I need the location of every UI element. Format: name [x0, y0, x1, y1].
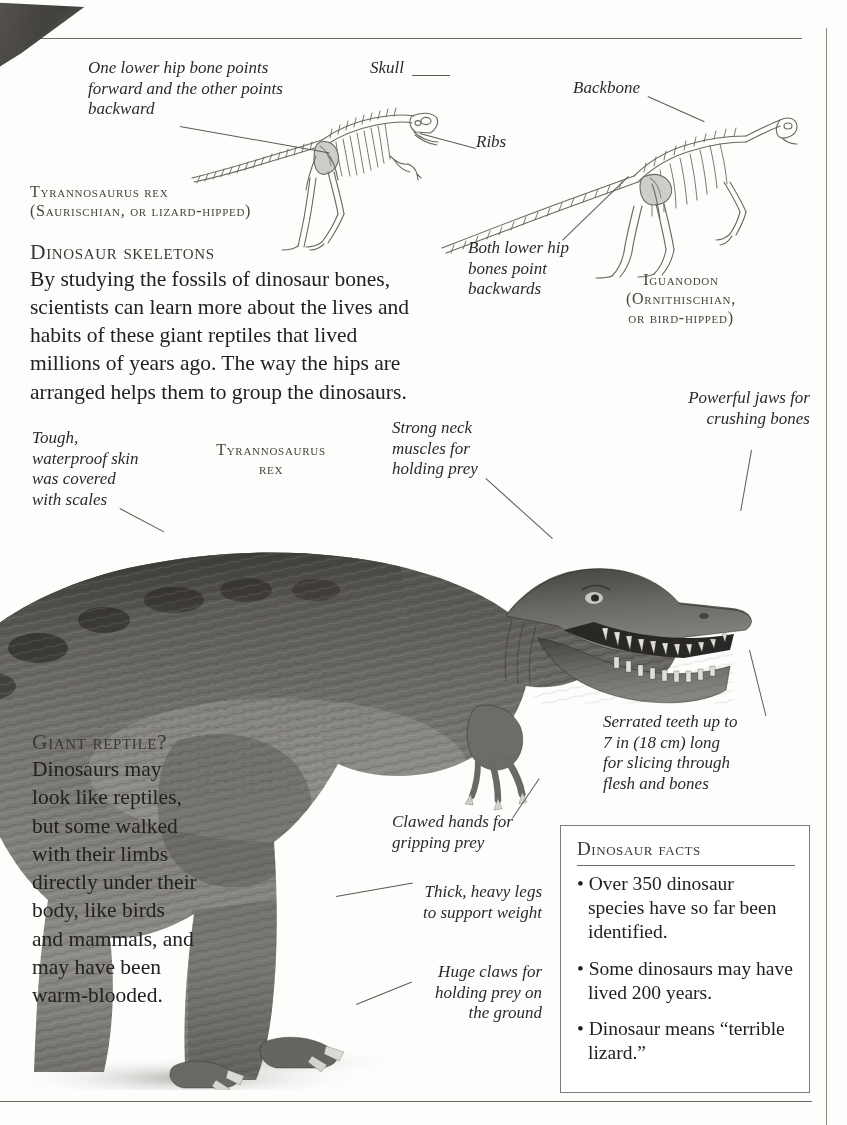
label-neck-muscles: Strong neck muscles for holding prey — [392, 418, 502, 480]
label-serrated-teeth: Serrated teeth up to 7 in (18 cm) long f… — [603, 712, 738, 795]
dinosaur-facts-title: Dinosaur facts — [577, 838, 795, 865]
bottom-rule — [0, 1101, 812, 1102]
caption-iguanodon-line3: or bird-hipped) — [590, 308, 772, 327]
label-thick-heavy-legs: Thick, heavy legs to support weight — [418, 882, 542, 923]
book-page: One lower hip bone points forward and th… — [0, 0, 847, 1125]
leader-skull — [412, 75, 450, 76]
caption-iguanodon-line1: Iguanodon — [590, 270, 772, 289]
caption-tyrannosaurus-rex-photo: Tyrannosaurus rex — [196, 440, 346, 478]
dinosaur-skeletons-heading: Dinosaur skeletons — [30, 240, 430, 265]
label-powerful-jaws: Powerful jaws for crushing bones — [688, 388, 810, 429]
caption-tyrannosaurus-skeleton: Tyrannosaurus rex (Saurischian, or lizar… — [30, 182, 290, 220]
label-huge-claws: Huge claws for holding prey on the groun… — [420, 962, 542, 1024]
label-hip-bone: One lower hip bone points forward and th… — [88, 58, 303, 120]
label-ribs: Ribs — [476, 132, 506, 153]
caption-iguanodon-skeleton: Iguanodon (Ornithischian, or bird-hipped… — [590, 270, 772, 328]
label-clawed-hands: Clawed hands for gripping prey — [392, 812, 532, 853]
caption-photo-line1: Tyrannosaurus — [196, 440, 346, 459]
giant-reptile-paragraph: Dinosaurs may look like reptiles, but so… — [32, 755, 200, 1009]
caption-photo-line2: rex — [196, 459, 346, 478]
giant-reptile-heading: Giant reptile? — [32, 730, 200, 755]
fact-item: • Some dinosaurs may have lived 200 year… — [577, 957, 795, 1005]
top-rule — [40, 38, 802, 39]
caption-trex-line1: Tyrannosaurus rex — [30, 182, 290, 201]
fact-item: • Dinosaur means “terrible lizard.” — [577, 1017, 795, 1065]
label-backbone: Backbone — [573, 78, 640, 99]
right-margin-rule — [826, 28, 827, 1125]
facts-divider — [577, 865, 795, 866]
dinosaur-skeletons-section: Dinosaur skeletons By studying the fossi… — [30, 240, 430, 406]
label-skull: Skull — [370, 58, 404, 79]
caption-trex-line2: (Saurischian, or lizard-hipped) — [30, 201, 290, 220]
label-both-lower-hip: Both lower hip bones point backwards — [468, 238, 598, 300]
giant-reptile-section: Giant reptile? Dinosaurs may look like r… — [32, 730, 200, 1009]
fact-item: • Over 350 dinosaur species have so far … — [577, 872, 795, 945]
caption-iguanodon-line2: (Ornithischian, — [590, 289, 772, 308]
dinosaur-facts-box: Dinosaur facts • Over 350 dinosaur speci… — [560, 825, 810, 1093]
dinosaur-skeletons-paragraph: By studying the fossils of dinosaur bone… — [30, 265, 430, 406]
label-waterproof-skin: Tough, waterproof skin was covered with … — [32, 428, 144, 511]
